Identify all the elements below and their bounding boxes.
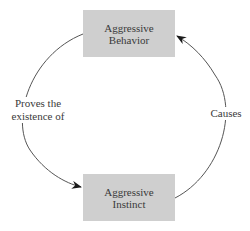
diagram-canvas: Aggressive Behavior Aggressive Instinct …	[0, 0, 250, 231]
node-aggressive-instinct: Aggressive Instinct	[83, 174, 175, 221]
node-aggressive-behavior: Aggressive Behavior	[83, 10, 175, 57]
node-label-line1: Aggressive	[104, 186, 154, 198]
edge-label-line1: Proves the	[4, 97, 72, 110]
node-label-line2: Instinct	[113, 198, 146, 210]
node-label-line2: Behavior	[109, 34, 149, 46]
edge-label-causes: Causes	[206, 107, 246, 120]
edge-label-proves-existence: Proves the existence of	[4, 97, 72, 123]
edge-label-line2: existence of	[4, 110, 72, 123]
node-label-line1: Aggressive	[104, 22, 154, 34]
